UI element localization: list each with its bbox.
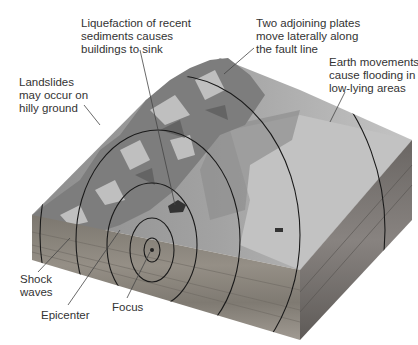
label-plates: Two adjoining plates move laterally alon… [256, 17, 360, 56]
label-liquefaction: Liquefaction of recent sediments causes … [81, 17, 191, 56]
focus-point [150, 248, 154, 252]
label-shock-waves: Shock waves [20, 273, 53, 299]
label-flooding: Earth movements cause flooding in low-ly… [329, 56, 418, 95]
label-epicenter: Epicenter [41, 309, 90, 322]
earthquake-diagram: Liquefaction of recent sediments causes … [0, 0, 418, 345]
label-landslides: Landslides may occur on hilly ground [19, 76, 88, 115]
label-focus: Focus [112, 301, 143, 314]
boat [275, 228, 283, 232]
